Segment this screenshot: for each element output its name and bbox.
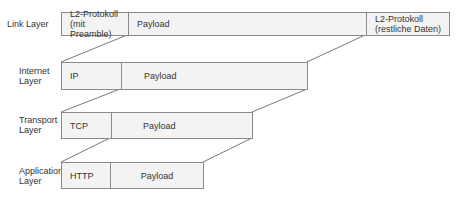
http-header-segment: HTTP: [62, 163, 110, 188]
layer-label-application: Application Layer: [19, 166, 63, 186]
internet-layer-packet: IP Payload: [61, 62, 308, 90]
l2-header-line1: L2-Protokoll: [70, 9, 118, 19]
l2-trailer-line1: L2-Protokoll: [375, 14, 423, 24]
l2-header-line2: (mit Preamble): [70, 19, 128, 39]
transport-payload-label: Payload: [143, 121, 176, 131]
l2-trailer-line2: (restliche Daten): [375, 24, 441, 34]
tcp-header-label: TCP: [70, 121, 88, 131]
ip-header-segment: IP: [62, 63, 121, 89]
link-payload-label: Payload: [137, 19, 170, 29]
internet-payload-label: Payload: [144, 71, 177, 81]
application-payload-label: Payload: [141, 171, 174, 181]
link-payload-segment: Payload: [128, 13, 366, 35]
tcp-header-segment: TCP: [62, 113, 111, 138]
link-layer-frame: L2-Protokoll (mit Preamble) Payload L2-P…: [61, 12, 450, 36]
layer-label-link: Link Layer: [7, 19, 49, 29]
ip-header-label: IP: [70, 71, 79, 81]
l2-header-segment: L2-Protokoll (mit Preamble): [62, 13, 128, 35]
transport-payload-segment: Payload: [111, 113, 252, 138]
application-payload-segment: Payload: [110, 163, 203, 188]
l2-trailer-segment: L2-Protokoll (restliche Daten): [366, 13, 449, 35]
http-header-label: HTTP: [70, 171, 94, 181]
transport-layer-segment: TCP Payload: [61, 112, 253, 139]
application-layer-message: HTTP Payload: [61, 162, 204, 189]
layer-label-internet: Internet Layer: [19, 66, 50, 86]
layer-label-transport: Transport Layer: [19, 115, 57, 135]
internet-payload-segment: Payload: [121, 63, 307, 89]
